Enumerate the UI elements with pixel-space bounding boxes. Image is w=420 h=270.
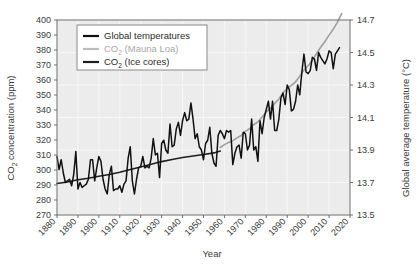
y-right-tick-label: 14.3 bbox=[357, 80, 375, 90]
y-left-tick-label: 400 bbox=[36, 15, 51, 25]
y-left-tick-label: 360 bbox=[36, 75, 51, 85]
y-left-tick-label: 290 bbox=[36, 180, 51, 190]
y-left-tick-label: 270 bbox=[36, 210, 51, 220]
legend-label[interactable]: Global temperatures bbox=[104, 30, 190, 41]
y-left-tick-label: 390 bbox=[36, 30, 51, 40]
y-left-tick-label: 340 bbox=[36, 105, 51, 115]
legend-label[interactable]: CO2 (Ice cores) bbox=[104, 56, 169, 69]
y-left-tick-label: 380 bbox=[36, 45, 51, 55]
y-left-tick-label: 350 bbox=[36, 90, 51, 100]
svg-text:Global average temperature (°C: Global average temperature (°C) bbox=[400, 59, 411, 197]
y-right-tick-label: 14.5 bbox=[357, 48, 375, 58]
y-left-tick-label: 370 bbox=[36, 60, 51, 70]
y-left-tick-label: 320 bbox=[36, 135, 51, 145]
y-right-tick-label: 13.7 bbox=[357, 178, 375, 188]
y-left-tick-label: 330 bbox=[36, 120, 51, 130]
y-left-tick-label: 300 bbox=[36, 165, 51, 175]
y-left-tick-label: 310 bbox=[36, 150, 51, 160]
y-axis-right-title: Global average temperature (°C) bbox=[400, 59, 411, 197]
legend-label[interactable]: CO2 (Mauna Loa) bbox=[104, 43, 178, 56]
y-right-tick-label: 14.1 bbox=[357, 113, 375, 123]
y-left-tick-label: 280 bbox=[36, 195, 51, 205]
y-right-tick-label: 13.9 bbox=[357, 145, 375, 155]
y-right-tick-label: 13.5 bbox=[357, 210, 375, 220]
x-axis-title: Year bbox=[202, 248, 221, 259]
y-right-tick-label: 14.7 bbox=[357, 15, 375, 25]
svg-text:Year: Year bbox=[202, 248, 221, 259]
chart-canvas: 1880189019001910192019301940195019601970… bbox=[0, 0, 420, 270]
co2-temperature-chart: 1880189019001910192019301940195019601970… bbox=[0, 0, 420, 270]
chart-legend[interactable]: Global temperaturesCO2 (Mauna Loa)CO2 (I… bbox=[77, 25, 207, 70]
